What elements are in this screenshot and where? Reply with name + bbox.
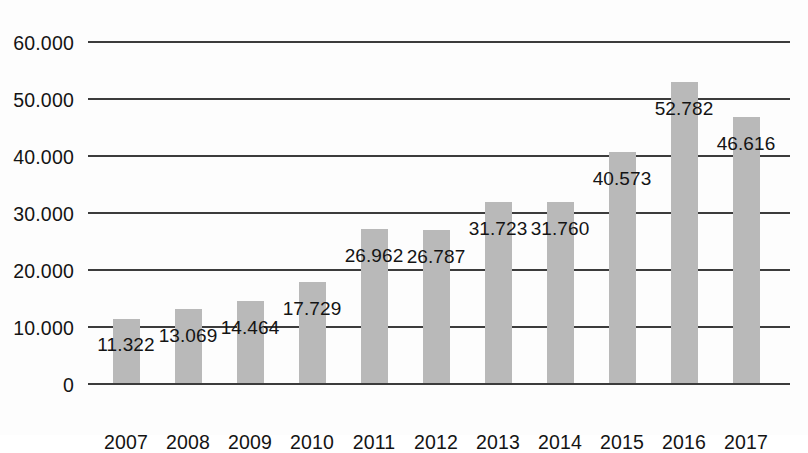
xtick-label-2007: 2007 (104, 431, 148, 453)
bar-value-2016: 52.782 (655, 98, 714, 120)
xtick-label-2014: 2014 (538, 431, 582, 453)
xtick-label-2010: 2010 (290, 431, 334, 453)
bar-value-2013: 31.723 (469, 218, 528, 240)
ytick-label-20000: 20.000 (13, 260, 74, 283)
xtick-label-2015: 2015 (600, 431, 644, 453)
bar-value-2015: 40.573 (593, 168, 652, 190)
ytick-label-30000: 30.000 (13, 203, 74, 226)
ytick-label-60000: 60.000 (13, 32, 74, 55)
bar-value-2007: 11.322 (97, 334, 154, 356)
ytick-label-40000: 40.000 (13, 146, 74, 169)
xtick-label-2009: 2009 (228, 431, 272, 453)
bar-2009[interactable] (237, 301, 264, 383)
bar-2016[interactable] (671, 82, 698, 383)
xtick-label-2013: 2013 (476, 431, 520, 453)
ytick-label-50000: 50.000 (13, 89, 74, 112)
bar-value-2009: 14.464 (221, 317, 280, 339)
ytick-label-10000: 10.000 (13, 317, 74, 340)
gridline-0-baseline: 0 (88, 383, 790, 385)
xtick-label-2017: 2017 (724, 431, 768, 453)
xtick-label-2008: 2008 (166, 431, 210, 453)
plot-area: 60.000 50.000 40.000 30.000 20.000 10.00… (88, 41, 790, 383)
xtick-label-2012: 2012 (414, 431, 458, 453)
gridline-60000: 60.000 (88, 41, 790, 43)
bar-2017[interactable] (733, 117, 760, 383)
ytick-label-0: 0 (63, 374, 74, 397)
bar-value-2010: 17.729 (283, 298, 342, 320)
bar-value-2017: 46.616 (717, 133, 776, 155)
bar-value-2011: 26.962 (345, 245, 404, 267)
bar-value-2012: 26.787 (407, 246, 466, 268)
xtick-label-2016: 2016 (662, 431, 706, 453)
xtick-label-2011: 2011 (353, 431, 396, 453)
bar-value-2008: 13.069 (159, 325, 218, 347)
bar-value-2014: 31.760 (531, 218, 590, 240)
